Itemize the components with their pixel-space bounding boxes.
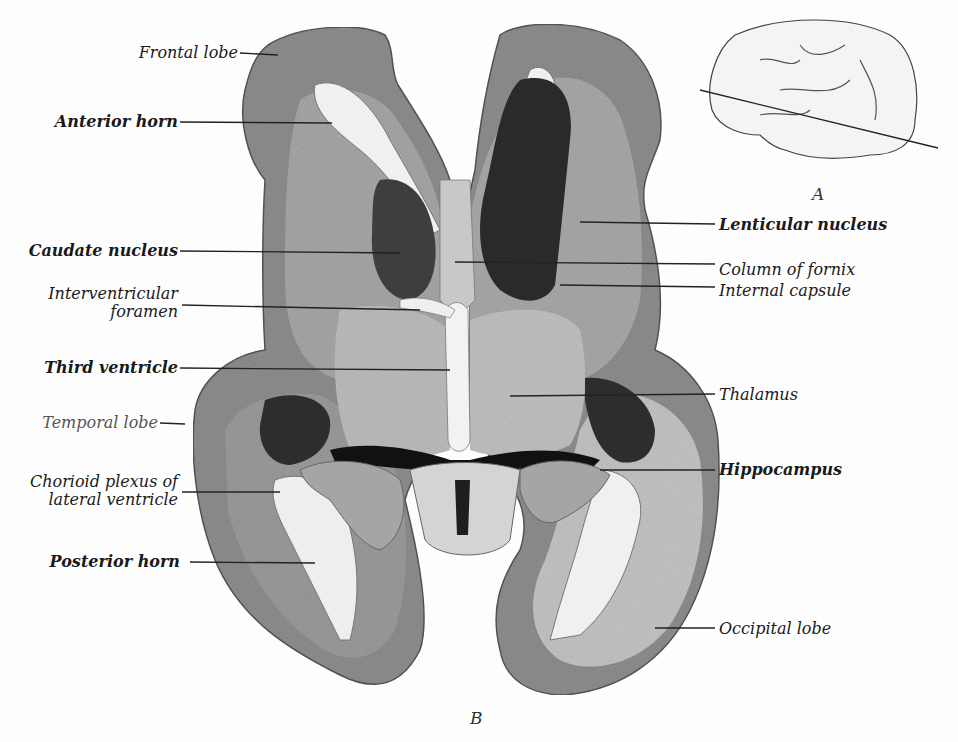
label-interventricular-foramen: Interventricular foramen bbox=[48, 285, 178, 321]
label-anterior-horn: Anterior horn bbox=[55, 113, 178, 131]
label-temporal-lobe: Temporal lobe bbox=[42, 414, 158, 432]
label-lenticular-nucleus: Lenticular nucleus bbox=[719, 216, 887, 234]
left-thalamus bbox=[335, 306, 450, 459]
label-interventricular-line1: Interventricular bbox=[48, 285, 178, 303]
label-hippocampus: Hippocampus bbox=[719, 461, 842, 479]
septum-pellucidum bbox=[440, 180, 475, 320]
midbrain-dark-core bbox=[455, 480, 470, 535]
label-third-ventricle: Third ventricle bbox=[44, 359, 178, 377]
inset-brain-outline bbox=[710, 20, 917, 158]
label-chorioid-line2: lateral ventricle bbox=[30, 491, 178, 509]
label-caudate-nucleus: Caudate nucleus bbox=[29, 242, 178, 260]
label-frontal-lobe: Frontal lobe bbox=[139, 44, 238, 62]
right-thalamus bbox=[470, 310, 585, 457]
label-chorioid-plexus: Chorioid plexus of lateral ventricle bbox=[30, 473, 178, 509]
figure-canvas: Frontal lobe Anterior horn Caudate nucle… bbox=[0, 0, 958, 742]
label-posterior-horn: Posterior horn bbox=[50, 553, 180, 571]
label-internal-capsule: Internal capsule bbox=[719, 282, 851, 300]
third-ventricle-cavity bbox=[445, 303, 470, 452]
label-column-of-fornix: Column of fornix bbox=[719, 261, 855, 279]
inset-brain-lateral-view bbox=[700, 20, 938, 158]
label-occipital-lobe: Occipital lobe bbox=[719, 620, 831, 638]
label-chorioid-line1: Chorioid plexus of bbox=[30, 473, 178, 491]
label-thalamus: Thalamus bbox=[719, 386, 798, 404]
label-interventricular-line2: foramen bbox=[48, 303, 178, 321]
inset-caption: A bbox=[812, 184, 824, 204]
leader-temporal-lobe bbox=[160, 423, 185, 424]
main-caption: B bbox=[470, 708, 483, 728]
